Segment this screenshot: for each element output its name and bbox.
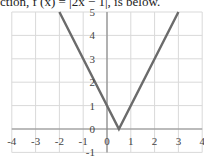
x-tick-label: -4 [7,135,17,147]
x-tick-label: -2 [55,135,64,147]
x-tick-label: -1 [79,135,88,147]
y-tick-label: 1 [90,100,96,112]
x-tick-label: 1 [128,135,134,147]
y-tick-label: 4 [90,29,96,41]
x-tick-label: 2 [152,135,158,147]
y-tick-label: 3 [90,53,96,65]
y-tick-label: 5 [90,6,96,18]
x-tick-label: 0 [104,135,110,147]
x-tick-label: 3 [176,135,182,147]
x-tick-label: -3 [31,135,41,147]
y-tick-label: 2 [90,76,96,88]
y-tick-label: 0 [90,123,96,135]
series-line [59,12,178,129]
x-tick-label: 4 [199,135,204,147]
y-tick-label: -1 [86,146,95,158]
series [59,12,178,129]
chart: -4-3-2-101234543210-1 [0,0,204,159]
